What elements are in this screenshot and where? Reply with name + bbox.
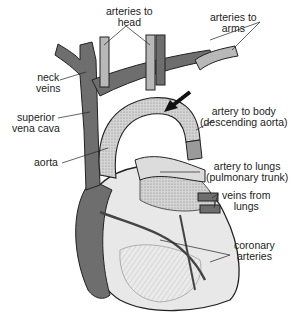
label-superior-vena-cava: superior vena cava [12,112,60,134]
label-coronary-arteries: coronary arteries [234,240,275,262]
label-descending-aorta: artery to body (descending aorta) [200,106,288,128]
label-pulmonary-trunk: artery to lungs (pulmonary trunk) [206,161,288,183]
label-neck-veins: neck veins [36,72,61,94]
label-arteries-to-arms: arteries to arms [210,12,257,34]
label-aorta: aorta [34,157,58,168]
superior-vena-cava-shape [55,42,100,190]
label-veins-from-lungs: veins from lungs [222,190,270,212]
label-arteries-to-head: arteries to head [106,6,153,28]
